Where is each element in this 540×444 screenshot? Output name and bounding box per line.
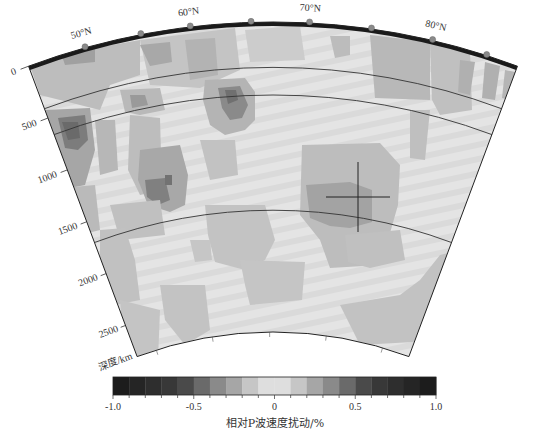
station-marker [430, 36, 436, 42]
depth-tick-label: 2000 [77, 271, 100, 288]
station-marker [307, 19, 313, 25]
depth-tick [121, 325, 126, 327]
colorbar-segment [323, 377, 339, 395]
station-marker [484, 51, 490, 57]
depth-tick [61, 170, 68, 173]
tomography-figure: 50°N60°N70°N80°N 05001000150020002500 深度… [0, 0, 540, 444]
depth-axis-title: 深度/km [96, 349, 134, 373]
colorbar-segment [242, 377, 258, 395]
colorbar-segment [129, 377, 145, 395]
colorbar-segment [291, 377, 307, 395]
colorbar-segment [161, 377, 177, 395]
bottom-tick [381, 348, 382, 353]
latitude-label: 70°N [299, 1, 321, 13]
depth-tick [101, 274, 106, 276]
colorbar-segment [145, 377, 161, 395]
colorbar-segment [226, 377, 242, 395]
station-marker [138, 31, 144, 37]
colorbar-segment [371, 377, 387, 395]
colorbar-segment [420, 377, 436, 395]
colorbar-segment [355, 377, 371, 395]
colorbar: -1.0-0.500.51.0 [105, 377, 442, 412]
colorbar-tick-label: -1.0 [105, 401, 121, 412]
station-marker [248, 18, 254, 24]
colorbar-segment [275, 377, 291, 395]
colorbar-segment [113, 377, 129, 395]
latitude-label: 80°N [424, 18, 447, 34]
station-marker [368, 25, 374, 31]
depth-tick [81, 222, 87, 224]
depth-tick [21, 66, 29, 69]
depth-tick-label: 1500 [56, 220, 79, 237]
colorbar-segment [388, 377, 404, 395]
colorbar-segment [210, 377, 226, 395]
bottom-tick [212, 337, 213, 342]
colorbar-tick-label: -0.5 [186, 401, 202, 412]
velocity-section [0, 0, 540, 400]
colorbar-tick-label: 1.0 [430, 401, 443, 412]
colorbar-segment [307, 377, 323, 395]
colorbar-segment [178, 377, 194, 395]
depth-tick-label: 2500 [97, 323, 120, 340]
bottom-tick [326, 336, 327, 341]
bottom-tick [156, 350, 158, 355]
depth-tick-label: 500 [20, 117, 38, 132]
colorbar-tick-label: 0.5 [349, 401, 362, 412]
colorbar-title: 相对P波速度扰动/% [226, 416, 325, 430]
colorbar-segment [339, 377, 355, 395]
colorbar-segment [194, 377, 210, 395]
latitude-label: 50°N [69, 25, 92, 41]
latitude-label: 60°N [177, 5, 199, 18]
depth-tick [41, 118, 48, 121]
depth-tick-label: 0 [9, 65, 17, 77]
colorbar-tick-label: 0 [272, 401, 277, 412]
colorbar-segment [404, 377, 420, 395]
station-marker [187, 23, 193, 29]
station-marker [82, 44, 88, 50]
depth-tick-label: 1000 [36, 168, 59, 185]
colorbar-segment [258, 377, 274, 395]
